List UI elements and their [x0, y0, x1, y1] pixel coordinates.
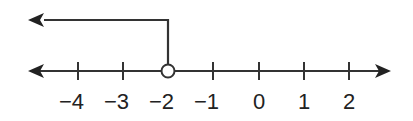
tick-label: −2: [149, 89, 174, 114]
tick-label: −1: [194, 89, 219, 114]
open-circle-endpoint: [162, 65, 175, 78]
solution-ray-arrow-icon: [28, 13, 44, 27]
tick-labels: −4 −3 −2 −1 0 1 2: [59, 89, 355, 114]
tick-label: 0: [253, 89, 265, 114]
solution-ray: [44, 20, 168, 64]
tick-label: 1: [298, 89, 310, 114]
tick-label: −4: [59, 89, 84, 114]
tick-label: 2: [343, 89, 355, 114]
tick-label: −3: [104, 89, 129, 114]
number-line-diagram: −4 −3 −2 −1 0 1 2: [0, 0, 413, 121]
